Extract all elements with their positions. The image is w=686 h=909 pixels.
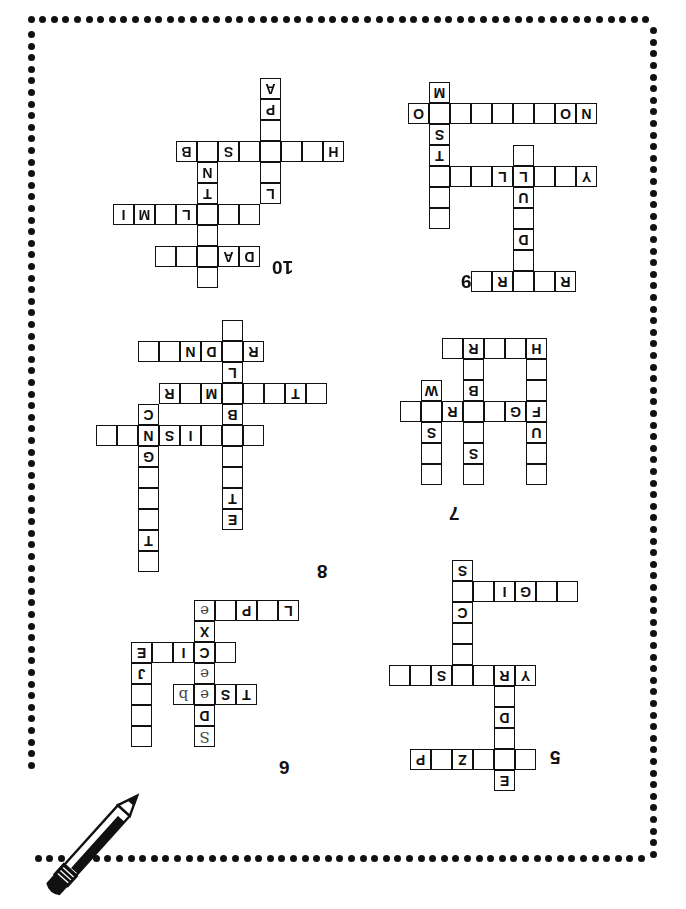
crossword-cell-empty[interactable] <box>131 705 152 726</box>
crossword-cell-filled[interactable]: T <box>138 530 159 551</box>
crossword-cell-empty[interactable] <box>155 246 176 267</box>
crossword-cell-empty[interactable] <box>222 320 243 341</box>
crossword-cell-filled[interactable]: U <box>513 187 534 208</box>
crossword-cell-empty[interactable] <box>138 341 159 362</box>
crossword-cell-empty[interactable] <box>218 204 239 225</box>
crossword-cell-empty[interactable] <box>197 204 218 225</box>
crossword-cell-empty[interactable] <box>117 425 138 446</box>
crossword-cell-filled[interactable]: R <box>492 271 513 292</box>
crossword-cell-empty[interactable] <box>471 103 492 124</box>
crossword-cell-empty[interactable] <box>197 141 218 162</box>
crossword-cell-empty[interactable] <box>222 341 243 362</box>
crossword-cell-empty[interactable] <box>222 425 243 446</box>
crossword-cell-empty[interactable] <box>197 267 218 288</box>
crossword-cell-empty[interactable] <box>138 509 159 530</box>
crossword-cell-filled[interactable]: L <box>492 166 513 187</box>
crossword-cell-empty[interactable] <box>222 383 243 404</box>
crossword-cell-empty[interactable] <box>442 338 463 359</box>
crossword-cell-empty[interactable] <box>389 665 410 686</box>
crossword-cell-empty[interactable] <box>463 464 484 485</box>
crossword-cell-filled[interactable]: J <box>131 663 152 684</box>
crossword-cell-filled[interactable]: I <box>494 581 515 602</box>
crossword-cell-empty[interactable] <box>264 383 285 404</box>
crossword-cell-filled[interactable]: R <box>494 665 515 686</box>
crossword-cell-empty[interactable] <box>239 141 260 162</box>
crossword-cell-filled[interactable]: M <box>201 383 222 404</box>
crossword-cell-filled[interactable]: E <box>131 642 152 663</box>
crossword-cell-filled[interactable]: U <box>526 422 547 443</box>
crossword-cell-empty[interactable] <box>281 141 302 162</box>
crossword-cell-filled[interactable]: Y <box>576 166 597 187</box>
crossword-cell-filled[interactable]: I <box>180 425 201 446</box>
crossword-cell-filled[interactable]: G <box>515 581 536 602</box>
crossword-cell-empty[interactable] <box>536 581 557 602</box>
crossword-cell-filled[interactable]: S <box>463 443 484 464</box>
crossword-cell-filled[interactable]: E <box>494 770 515 791</box>
crossword-cell-filled[interactable]: S <box>215 684 236 705</box>
crossword-cell-empty[interactable] <box>555 166 576 187</box>
crossword-cell-empty[interactable] <box>515 749 536 770</box>
crossword-cell-filled[interactable]: B <box>463 380 484 401</box>
crossword-cell-filled[interactable]: e <box>194 663 215 684</box>
crossword-cell-filled[interactable]: Y <box>515 665 536 686</box>
crossword-cell-filled[interactable]: S <box>218 141 239 162</box>
crossword-cell-filled[interactable]: D <box>194 705 215 726</box>
crossword-cell-filled[interactable]: C <box>138 404 159 425</box>
crossword-cell-empty[interactable] <box>484 401 505 422</box>
crossword-cell-empty[interactable] <box>243 425 264 446</box>
crossword-cell-empty[interactable] <box>484 338 505 359</box>
crossword-cell-empty[interactable] <box>513 208 534 229</box>
crossword-cell-empty[interactable] <box>534 166 555 187</box>
crossword-cell-empty[interactable] <box>471 166 492 187</box>
crossword-cell-filled[interactable]: R <box>555 271 576 292</box>
crossword-cell-filled[interactable]: T <box>285 383 306 404</box>
crossword-cell-empty[interactable] <box>421 401 442 422</box>
crossword-cell-empty[interactable] <box>131 726 152 747</box>
crossword-cell-empty[interactable] <box>473 581 494 602</box>
crossword-cell-filled[interactable]: L <box>260 183 281 204</box>
crossword-cell-empty[interactable] <box>159 341 180 362</box>
crossword-cell-empty[interactable] <box>410 665 431 686</box>
crossword-cell-filled[interactable]: e <box>194 600 215 621</box>
crossword-cell-empty[interactable] <box>526 359 547 380</box>
crossword-cell-filled[interactable]: L <box>222 362 243 383</box>
crossword-cell-filled[interactable]: S <box>452 560 473 581</box>
crossword-cell-filled[interactable]: O <box>408 103 429 124</box>
crossword-cell-filled[interactable]: A <box>260 78 281 99</box>
crossword-cell-empty[interactable] <box>197 225 218 246</box>
crossword-cell-empty[interactable] <box>452 644 473 665</box>
crossword-cell-empty[interactable] <box>306 383 327 404</box>
crossword-cell-filled[interactable]: I <box>173 642 194 663</box>
crossword-cell-empty[interactable] <box>505 338 526 359</box>
crossword-cell-filled[interactable]: N <box>576 103 597 124</box>
crossword-cell-filled[interactable]: T <box>222 488 243 509</box>
crossword-cell-filled[interactable]: M <box>134 204 155 225</box>
crossword-cell-empty[interactable] <box>243 383 264 404</box>
crossword-cell-empty[interactable] <box>152 642 173 663</box>
crossword-cell-empty[interactable] <box>534 103 555 124</box>
crossword-cell-filled[interactable]: S <box>421 422 442 443</box>
crossword-cell-empty[interactable] <box>138 488 159 509</box>
crossword-cell-filled[interactable]: Z <box>452 749 473 770</box>
crossword-cell-empty[interactable] <box>463 359 484 380</box>
crossword-cell-empty[interactable] <box>155 204 176 225</box>
crossword-cell-empty[interactable] <box>513 250 534 271</box>
crossword-cell-empty[interactable] <box>526 443 547 464</box>
crossword-cell-filled[interactable]: N <box>138 425 159 446</box>
crossword-cell-empty[interactable] <box>257 600 278 621</box>
crossword-cell-filled[interactable]: B <box>176 141 197 162</box>
crossword-cell-empty[interactable] <box>215 600 236 621</box>
crossword-cell-filled[interactable]: H <box>526 338 547 359</box>
crossword-cell-filled[interactable]: T <box>429 145 450 166</box>
crossword-cell-empty[interactable] <box>131 684 152 705</box>
crossword-cell-filled[interactable]: E <box>222 509 243 530</box>
crossword-cell-empty[interactable] <box>201 425 222 446</box>
crossword-cell-filled[interactable]: L <box>278 600 299 621</box>
crossword-cell-empty[interactable] <box>96 425 117 446</box>
crossword-cell-filled[interactable]: e <box>194 684 215 705</box>
crossword-cell-empty[interactable] <box>452 623 473 644</box>
crossword-cell-empty[interactable] <box>429 187 450 208</box>
crossword-cell-empty[interactable] <box>239 204 260 225</box>
crossword-cell-empty[interactable] <box>513 103 534 124</box>
crossword-cell-filled[interactable]: G <box>138 446 159 467</box>
